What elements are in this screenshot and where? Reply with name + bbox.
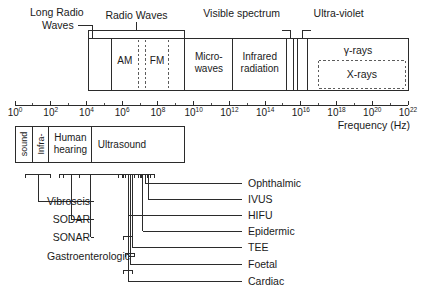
axis-tick-label-6: 1012	[220, 106, 239, 118]
em-band-label-infrared-line1: Infrared	[242, 51, 276, 62]
axis-tick-label-0: 100	[8, 106, 23, 118]
app-label-sonar: SONAR	[53, 231, 91, 243]
acoustic-band-label-human-hearing-line2: hearing	[54, 144, 87, 155]
acoustic-band-label-sound: sound	[19, 132, 29, 157]
em-band-label-ultra-violet: Ultra-violet	[314, 7, 364, 19]
app-label-hifu: HIFU	[248, 209, 273, 221]
axis-tick-label-7: 1014	[256, 106, 275, 118]
app-label-ophthalmic: Ophthalmic	[248, 177, 301, 189]
app-label-epidermic: Epidermic	[248, 225, 295, 237]
em-band-label-infrared-line2: radiation	[241, 63, 279, 74]
app-label-cardiac: Cardiac	[248, 275, 284, 287]
em-band-label-microwaves-line2: waves	[194, 63, 223, 74]
axis-tick-label-10: 1020	[363, 106, 382, 118]
app-label-gastroenterologic: Gastroenterologic	[47, 250, 130, 262]
acoustic-band-label-ultrasound: Ultrasound	[98, 139, 146, 150]
spectrum-diagram: AMFMMicro-wavesInfraredradiationγ-raysX-…	[0, 0, 437, 302]
em-band-label-microwaves-line1: Micro-	[195, 51, 223, 62]
app-label-sodar: SODAR	[53, 213, 91, 225]
app-label-foetal: Foetal	[248, 258, 277, 270]
acoustic-band-label-human-hearing-line1: Human	[54, 132, 86, 143]
axis-tick-label-9: 1018	[327, 106, 346, 118]
axis-tick-label-3: 106	[115, 106, 130, 118]
app-label-vibroseis: Vibroseis	[47, 195, 90, 207]
app-label-tee: TEE	[248, 241, 268, 253]
em-band-label-fm: FM	[150, 55, 164, 66]
spectrum-figure: AMFMMicro-wavesInfraredradiationγ-raysX-…	[0, 0, 437, 302]
app-label-ivus: IVUS	[248, 193, 273, 205]
em-band-label-am: AM	[117, 55, 132, 66]
frequency-axis-label: Frequency (Hz)	[338, 119, 410, 131]
axis-tick-label-8: 1016	[292, 106, 311, 118]
em-band-label-xrays: X-rays	[347, 68, 377, 80]
em-band-label-long-radio-waves-line2: Waves	[42, 19, 74, 31]
axis-tick-label-4: 108	[151, 106, 166, 118]
em-band-label-long-radio-waves-line1: Long Radio	[30, 6, 84, 18]
axis-tick-label-5: 1010	[184, 106, 203, 118]
em-band-label-radio-waves: Radio Waves	[105, 9, 167, 21]
axis-tick-label-1: 102	[43, 106, 58, 118]
acoustic-band-label-infra: Infra-	[36, 133, 46, 154]
em-band-label-gamma-rays: γ-rays	[344, 44, 373, 56]
axis-tick-label-11: 1022	[399, 106, 418, 118]
em-band-label-visible-spectrum: Visible spectrum	[203, 7, 280, 19]
axis-tick-label-2: 104	[79, 106, 94, 118]
